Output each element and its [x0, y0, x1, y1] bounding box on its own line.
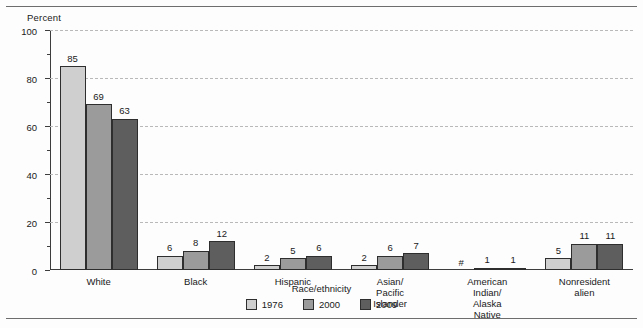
bar-column[interactable]: 2 [351, 30, 377, 270]
plot-area: 020406080100 856963White6812Black256Hisp… [50, 30, 633, 270]
legend-swatch [303, 299, 314, 310]
legend-item[interactable]: 1976 [246, 299, 283, 310]
bar-value-label: 11 [579, 231, 589, 241]
bar-group: 51111Nonresident alien [536, 30, 633, 270]
legend-label: 2009 [376, 299, 397, 310]
bar-column[interactable]: 11 [571, 30, 597, 270]
bar-value-label: 1 [485, 255, 490, 265]
bar-group: 267Asian/ Pacific Islander [342, 30, 439, 270]
bar-group-bars: 267 [342, 30, 439, 270]
bar[interactable] [500, 268, 526, 270]
bar-value-label: 6 [387, 243, 392, 253]
bar[interactable] [377, 256, 403, 270]
bar-column[interactable]: 7 [403, 30, 429, 270]
bar[interactable] [183, 251, 209, 270]
legend-label: 2000 [319, 299, 340, 310]
bar-group: #11American Indian/ Alaska Native [439, 30, 536, 270]
y-tick-major: 0 [45, 270, 50, 271]
bar-column[interactable]: 11 [597, 30, 623, 270]
top-divider-rule [6, 6, 637, 7]
bar[interactable] [474, 268, 500, 270]
bar-column[interactable]: 12 [209, 30, 235, 270]
bar[interactable] [571, 244, 597, 270]
bar-column[interactable]: 6 [306, 30, 332, 270]
y-tick-label: 0 [32, 266, 37, 277]
bar[interactable] [112, 119, 138, 270]
bar-column[interactable]: 85 [60, 30, 86, 270]
bar-value-label: 2 [361, 253, 366, 263]
bar-column[interactable]: 5 [280, 30, 306, 270]
legend-swatch [360, 299, 371, 310]
bar-group: 256Hispanic [244, 30, 341, 270]
bar-value-label: 2 [264, 253, 269, 263]
bar-value-label: 5 [556, 246, 561, 256]
bar-value-label: 7 [413, 241, 418, 251]
bar[interactable] [545, 258, 571, 270]
bar-column[interactable]: 1 [500, 30, 526, 270]
bar-column[interactable]: 63 [112, 30, 138, 270]
bar-column[interactable]: 6 [377, 30, 403, 270]
bar-value-label: 8 [193, 238, 198, 248]
bar[interactable] [86, 104, 112, 270]
bar[interactable] [403, 253, 429, 270]
bar-value-label: 12 [216, 229, 227, 239]
bar-group-bars: 256 [244, 30, 341, 270]
bar-column[interactable]: 8 [183, 30, 209, 270]
bar[interactable] [280, 258, 306, 270]
bar[interactable] [597, 244, 623, 270]
bottom-divider-rule [6, 318, 637, 319]
bar-value-label: 5 [290, 246, 295, 256]
legend-label: 1976 [262, 299, 283, 310]
legend: 197620002009 [0, 299, 643, 310]
y-tick-label: 60 [26, 122, 37, 133]
chart-figure: Percent 020406080100 856963White6812Blac… [0, 0, 643, 328]
legend-swatch [246, 299, 257, 310]
bar-value-label: 85 [67, 54, 78, 64]
y-tick-label: 100 [21, 26, 37, 37]
bar[interactable] [254, 265, 280, 270]
bar-value-label: 6 [316, 243, 321, 253]
bar-value-label: 1 [511, 255, 516, 265]
bar-value-label: 69 [93, 92, 104, 102]
bar-column[interactable]: 5 [545, 30, 571, 270]
bar[interactable] [60, 66, 86, 270]
y-tick-label: 20 [26, 218, 37, 229]
bar-column[interactable]: 1 [474, 30, 500, 270]
bar-value-label: # [459, 258, 464, 268]
bar-column[interactable]: 6 [157, 30, 183, 270]
bar-group: 856963White [50, 30, 147, 270]
bar-group-bars: 856963 [50, 30, 147, 270]
bar[interactable] [351, 265, 377, 270]
bar-value-label: 63 [119, 106, 130, 116]
bar-value-label: 11 [605, 231, 615, 241]
bar[interactable] [306, 256, 332, 270]
x-axis-title: Race/ethnicity [0, 283, 643, 294]
bar-group: 6812Black [147, 30, 244, 270]
bar-group-bars: #11 [439, 30, 536, 270]
bar[interactable] [209, 241, 235, 270]
bar-column[interactable]: # [448, 30, 474, 270]
y-tick-label: 80 [26, 74, 37, 85]
legend-item[interactable]: 2009 [360, 299, 397, 310]
legend-item[interactable]: 2000 [303, 299, 340, 310]
bar-group-bars: 6812 [147, 30, 244, 270]
bar[interactable] [157, 256, 183, 270]
bar-group-bars: 51111 [536, 30, 633, 270]
bar-value-label: 6 [167, 243, 172, 253]
y-tick-label: 40 [26, 170, 37, 181]
bar-column[interactable]: 2 [254, 30, 280, 270]
bar-column[interactable]: 69 [86, 30, 112, 270]
y-axis-title: Percent [27, 12, 61, 23]
